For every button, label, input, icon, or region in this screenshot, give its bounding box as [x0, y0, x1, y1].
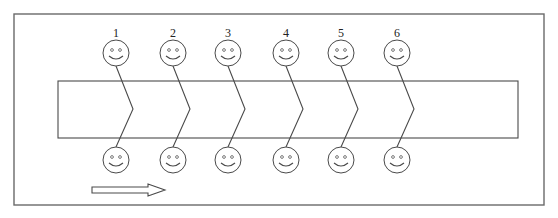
smiley-face-icon — [328, 147, 354, 173]
figures-group: 123456 — [103, 26, 414, 173]
figure-pair-3: 3 — [215, 26, 245, 173]
top-face — [273, 40, 299, 66]
smiley-face-icon — [103, 147, 129, 173]
figure-pair-5: 5 — [328, 26, 358, 173]
figure-label: 1 — [113, 26, 119, 40]
center-band — [58, 81, 518, 138]
zigzag-connector — [341, 66, 358, 147]
smiley-face-icon — [215, 40, 241, 66]
zigzag-connector — [116, 66, 133, 147]
smiley-face-icon — [103, 40, 129, 66]
zigzag-connector — [286, 66, 303, 147]
top-face — [384, 40, 410, 66]
smiley-face-icon — [273, 40, 299, 66]
bottom-face — [215, 147, 241, 173]
zigzag-connector — [228, 66, 245, 147]
smiley-face-icon — [273, 147, 299, 173]
top-face — [328, 40, 354, 66]
figure-label: 4 — [283, 26, 289, 40]
zigzag-connector — [397, 66, 414, 147]
smiley-face-icon — [160, 40, 186, 66]
figure-label: 2 — [170, 26, 176, 40]
figure-label: 3 — [225, 26, 231, 40]
top-face — [215, 40, 241, 66]
smiley-face-icon — [328, 40, 354, 66]
figure-pair-2: 2 — [160, 26, 190, 173]
bottom-face — [103, 147, 129, 173]
bottom-face — [328, 147, 354, 173]
figure-pair-1: 1 — [103, 26, 133, 173]
figure-label: 5 — [338, 26, 344, 40]
arrow-right-icon — [92, 184, 165, 196]
bottom-face — [273, 147, 299, 173]
smiley-face-icon — [384, 147, 410, 173]
figure-pair-6: 6 — [384, 26, 414, 173]
figure-label: 6 — [394, 26, 400, 40]
bottom-face — [160, 147, 186, 173]
person-chain-diagram: 123456 — [0, 0, 558, 218]
zigzag-connector — [173, 66, 190, 147]
top-face — [160, 40, 186, 66]
top-face — [103, 40, 129, 66]
bottom-face — [384, 147, 410, 173]
smiley-face-icon — [215, 147, 241, 173]
figure-pair-4: 4 — [273, 26, 303, 173]
smiley-face-icon — [160, 147, 186, 173]
smiley-face-icon — [384, 40, 410, 66]
direction-arrow-icon — [92, 184, 165, 196]
